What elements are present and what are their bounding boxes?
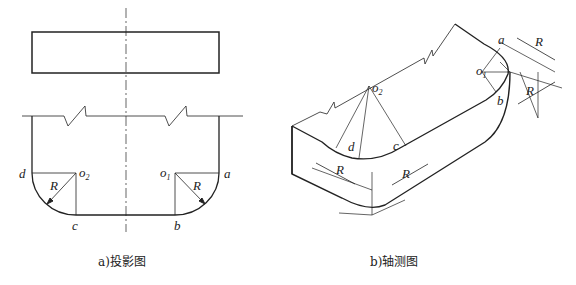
iso-label-r4: R [525,83,534,98]
caption-a: a)投影图 [98,254,146,269]
caption-b: b)轴测图 [370,254,418,269]
iso-label-r1: R [335,162,344,177]
iso-label-o1: o1 [476,63,487,80]
break-line [22,106,243,126]
label-c: c [72,218,78,233]
iso-label-a: a [498,32,505,47]
label-o2: o2 [79,165,90,182]
label-o1: o1 [160,165,171,182]
iso-label-c: c [393,138,399,153]
front-outline [32,116,219,215]
iso-label-d: d [348,139,355,154]
label-d: d [19,166,26,181]
projection-labels: d o2 o1 a c b R R a)投影图 [19,165,231,269]
iso-label-b: b [497,93,504,108]
label-r-left: R [49,178,58,193]
iso-label-r3: R [534,34,543,49]
diagram-canvas: d o2 o1 a c b R R a)投影图 [0,0,576,285]
iso-label-r2: R [401,166,410,181]
projection-view [22,8,243,232]
label-r-right: R [192,178,201,193]
isometric-labels: a o1 b o2 d c R R R R b)轴测图 [335,32,543,269]
label-b: b [174,218,181,233]
isometric-view [292,24,562,215]
top-view-rect [32,32,219,73]
label-a: a [224,166,231,181]
